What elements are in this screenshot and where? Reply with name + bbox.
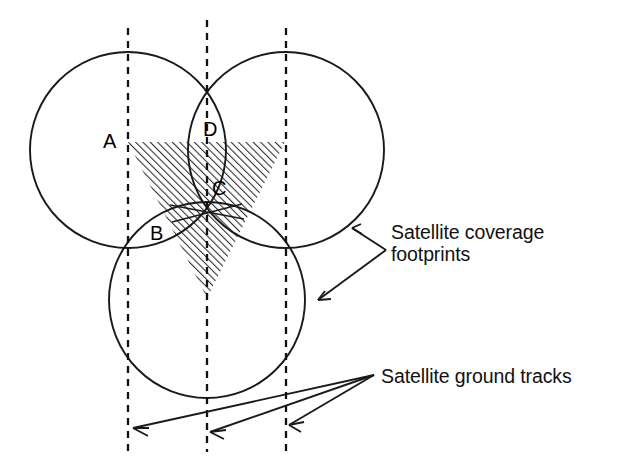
ground-tracks-callout-arrows (133, 375, 374, 439)
ground-tracks-callout-label: Satellite ground tracks (381, 366, 572, 388)
footprints-callout-arrows (318, 224, 386, 300)
point-label-a: A (103, 130, 117, 152)
footprints-callout-label: Satellite coverage footprints (391, 222, 544, 266)
point-label-c: C (212, 177, 226, 199)
point-label-b: B (150, 222, 163, 244)
satellite-coverage-diagram: A B C D Satellite coverage footprints Sa… (0, 0, 629, 469)
point-label-d: D (203, 118, 217, 140)
